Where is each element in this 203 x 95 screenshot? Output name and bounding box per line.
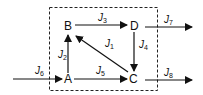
- edge-j1: [76, 36, 128, 72]
- label-j5: J5: [95, 65, 105, 77]
- label-j1: J1: [104, 38, 114, 50]
- node-a: A: [64, 72, 72, 86]
- label-j6: J6: [34, 65, 44, 77]
- node-b: B: [64, 19, 72, 33]
- label-j8: J8: [163, 67, 173, 79]
- label-j2: J2: [57, 49, 67, 61]
- label-j7: J7: [163, 14, 173, 26]
- flow-diagram: B D A C J3 J2 J1 J4 J5 J6 J7 J8: [0, 0, 203, 95]
- node-d: D: [130, 19, 139, 33]
- label-j3: J3: [97, 12, 107, 24]
- node-c: C: [129, 72, 138, 86]
- label-j4: J4: [138, 39, 148, 51]
